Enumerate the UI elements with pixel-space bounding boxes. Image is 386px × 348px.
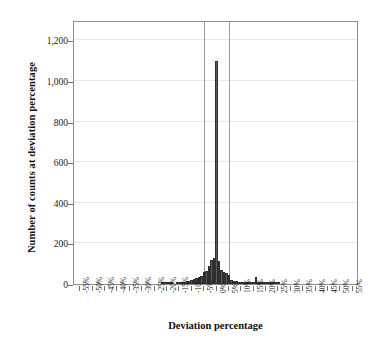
x-axis-title: Deviation percentage	[73, 320, 358, 331]
x-tick-label: 5%	[231, 283, 240, 293]
x-tick-label: -30%	[144, 277, 153, 293]
y-tick-mark	[68, 285, 73, 286]
y-tick-mark	[68, 123, 73, 124]
x-tick-label: 45%	[330, 279, 339, 293]
x-tick-mark	[327, 286, 328, 291]
x-tick-label: 0%	[219, 283, 228, 293]
x-tick-mark	[129, 286, 130, 291]
x-tick-mark	[116, 286, 117, 291]
x-tick-label: -20%	[169, 277, 178, 293]
x-tick-mark	[352, 286, 353, 291]
x-tick-mark	[290, 286, 291, 291]
bars	[74, 22, 357, 284]
x-tick-mark	[216, 286, 217, 291]
y-tick-mark	[68, 244, 73, 245]
x-tick-mark	[79, 286, 80, 291]
histogram-chart: Number of counts at deviation percentage…	[0, 0, 386, 348]
plot-area	[73, 21, 358, 285]
x-tick-mark	[339, 286, 340, 291]
x-tick-label: -15%	[181, 277, 190, 293]
y-tick-label: 400	[22, 199, 68, 209]
y-tick-label: 600	[22, 158, 68, 168]
x-tick-label: 20%	[268, 279, 277, 293]
x-tick-mark	[240, 286, 241, 291]
x-tick-label: 40%	[318, 279, 327, 293]
y-tick-label: 200	[22, 239, 68, 249]
x-tick-mark	[203, 286, 204, 291]
x-tick-label: 30%	[293, 279, 302, 293]
x-tick-label: -50%	[95, 277, 104, 293]
x-tick-mark	[166, 286, 167, 291]
x-tick-mark	[154, 286, 155, 291]
x-tick-mark	[277, 286, 278, 291]
y-tick-mark	[68, 163, 73, 164]
y-tick-mark	[68, 41, 73, 42]
y-tick-label: 800	[22, 118, 68, 128]
x-tick-mark	[253, 286, 254, 291]
x-tick-label: 25%	[280, 279, 289, 293]
x-tick-mark	[265, 286, 266, 291]
x-tick-mark	[228, 286, 229, 291]
x-tick-label: -55%	[82, 277, 91, 293]
y-tick-label: 0	[22, 280, 68, 290]
x-tick-mark	[178, 286, 179, 291]
x-tick-mark	[141, 286, 142, 291]
x-tick-label: -35%	[132, 277, 141, 293]
x-tick-mark	[315, 286, 316, 291]
x-tick-label: 15%	[256, 279, 265, 293]
x-tick-label: -25%	[157, 277, 166, 293]
y-tick-label: 1,000	[22, 77, 68, 87]
x-tick-label: 35%	[305, 279, 314, 293]
x-tick-label: -40%	[119, 277, 128, 293]
x-tick-label: 50%	[342, 279, 351, 293]
y-tick-label: 1,200	[22, 36, 68, 46]
x-tick-mark	[191, 286, 192, 291]
x-tick-mark	[92, 286, 93, 291]
x-tick-label: -10%	[194, 277, 203, 293]
y-tick-mark	[68, 82, 73, 83]
x-tick-mark	[104, 286, 105, 291]
x-tick-label: -45%	[107, 277, 116, 293]
x-tick-label: 10%	[243, 279, 252, 293]
y-tick-mark	[68, 204, 73, 205]
x-tick-mark	[302, 286, 303, 291]
x-tick-label: -5%	[206, 281, 215, 293]
histogram-bar	[215, 61, 217, 284]
x-tick-label: 55%	[355, 279, 364, 293]
